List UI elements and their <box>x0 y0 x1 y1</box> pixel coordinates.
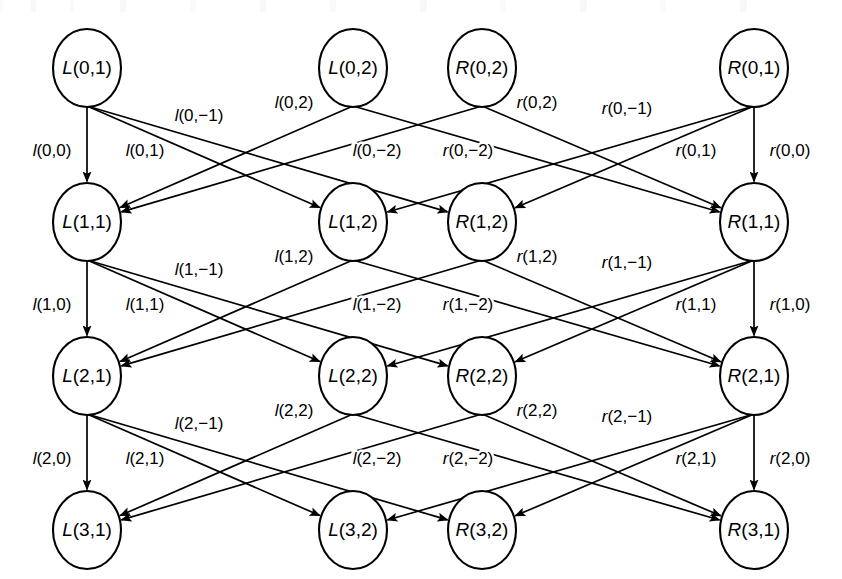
edge-label: r(0,2) <box>517 93 558 112</box>
node-l22[interactable]: L(2,2) <box>319 337 387 415</box>
edge-label: r(0,0) <box>770 141 811 160</box>
node-label: R(3,1) <box>728 519 781 540</box>
node-label: L(2,2) <box>328 365 378 386</box>
edge-label: l(2,2) <box>275 401 314 420</box>
node-label: L(0,2) <box>328 57 378 78</box>
node-label: L(1,1) <box>62 211 112 232</box>
edge-l12-to-r21 <box>353 260 720 366</box>
edges-layer <box>87 106 754 520</box>
node-l01[interactable]: L(0,1) <box>53 29 121 107</box>
diagram-canvas: L(0,1)L(0,2)R(0,2)R(0,1)L(1,1)L(1,2)R(1,… <box>0 0 842 579</box>
edge-label: l(1,−2) <box>353 295 402 314</box>
edge-label: l(2,−1) <box>175 414 224 433</box>
edge-label: r(1,−1) <box>602 253 653 272</box>
edge-label: l(2,1) <box>126 449 165 468</box>
edge-label: r(1,2) <box>517 247 558 266</box>
node-l11[interactable]: L(1,1) <box>53 183 121 261</box>
node-label: R(1,2) <box>456 211 509 232</box>
edge-label: l(1,2) <box>275 247 314 266</box>
trellis-graph: L(0,1)L(0,2)R(0,2)R(0,1)L(1,1)L(1,2)R(1,… <box>0 0 842 579</box>
node-label: R(2,2) <box>456 365 509 386</box>
edge-label: r(2,−1) <box>602 407 653 426</box>
edge-label: l(0,0) <box>33 141 72 160</box>
edge-label: r(2,0) <box>770 449 811 468</box>
node-r31[interactable]: R(3,1) <box>720 491 788 569</box>
edge-label: r(0,−1) <box>602 99 653 118</box>
edge-label: r(0,1) <box>676 141 717 160</box>
edge-label: l(0,−1) <box>175 106 224 125</box>
edge-label: r(2,1) <box>676 449 717 468</box>
edge-label: l(0,1) <box>126 141 165 160</box>
edge-label: r(1,−2) <box>443 295 494 314</box>
edge-r01-to-r12 <box>515 106 754 208</box>
node-l21[interactable]: L(2,1) <box>53 337 121 415</box>
node-label: L(3,1) <box>62 519 112 540</box>
edge-r11-to-r22 <box>515 260 754 362</box>
edge-label: r(0,−2) <box>443 141 494 160</box>
edge-label: r(1,1) <box>676 295 717 314</box>
edge-l22-to-r31 <box>353 414 720 520</box>
node-label: R(3,2) <box>456 519 509 540</box>
node-label: R(0,2) <box>456 57 509 78</box>
edge-r21-to-r32 <box>515 414 754 516</box>
edge-label: l(1,1) <box>126 295 165 314</box>
edge-label: r(1,0) <box>770 295 811 314</box>
node-r12[interactable]: R(1,2) <box>448 183 516 261</box>
edge-labels-layer: l(0,0)l(0,0)l(0,1)l(0,1)l(0,−1)l(0,−1)l(… <box>33 93 811 468</box>
edge-label: l(1,0) <box>33 295 72 314</box>
node-r01[interactable]: R(0,1) <box>720 29 788 107</box>
edge-l02-to-r11 <box>353 106 720 212</box>
edge-label: l(2,0) <box>33 449 72 468</box>
node-label: L(3,2) <box>328 519 378 540</box>
node-r02[interactable]: R(0,2) <box>448 29 516 107</box>
node-label: R(0,1) <box>728 57 781 78</box>
node-label: R(1,1) <box>728 211 781 232</box>
node-l02[interactable]: L(0,2) <box>319 29 387 107</box>
node-r32[interactable]: R(3,2) <box>448 491 516 569</box>
edge-label: r(2,−2) <box>443 449 494 468</box>
node-l32[interactable]: L(3,2) <box>319 491 387 569</box>
node-l12[interactable]: L(1,2) <box>319 183 387 261</box>
edge-label: l(0,2) <box>275 93 314 112</box>
edge-label: l(2,−2) <box>353 449 402 468</box>
edge-label: r(2,2) <box>517 401 558 420</box>
edge-label: l(0,−2) <box>353 141 402 160</box>
node-r21[interactable]: R(2,1) <box>720 337 788 415</box>
node-label: R(2,1) <box>728 365 781 386</box>
node-label: L(0,1) <box>62 57 112 78</box>
node-label: L(1,2) <box>328 211 378 232</box>
edge-label: l(1,−1) <box>175 260 224 279</box>
node-l31[interactable]: L(3,1) <box>53 491 121 569</box>
node-label: L(2,1) <box>62 365 112 386</box>
node-r11[interactable]: R(1,1) <box>720 183 788 261</box>
node-r22[interactable]: R(2,2) <box>448 337 516 415</box>
